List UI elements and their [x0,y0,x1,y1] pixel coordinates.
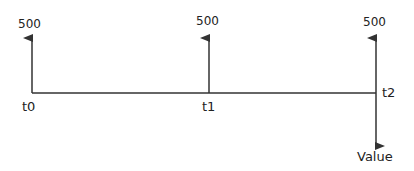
time-label-t0: t0 [22,100,35,114]
value-label: Value [357,150,393,164]
amount-label-t1: 500 [196,14,219,28]
amount-label-t0: 500 [18,17,41,31]
time-label-t1: t1 [202,100,215,114]
time-label-t2: t2 [382,86,395,100]
amount-label-t2: 500 [363,15,386,29]
